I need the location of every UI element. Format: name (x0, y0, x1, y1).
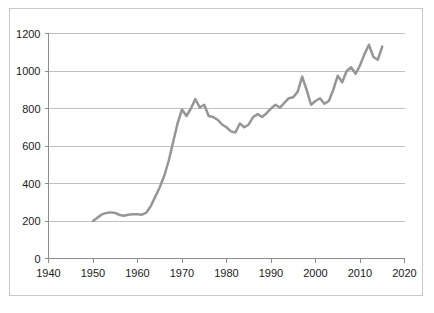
y-tick-label-1000: 1000 (16, 65, 40, 77)
y-tick-label-1200: 1200 (16, 28, 40, 40)
chart-figure: 020040060080010001200 194019501960197019… (0, 0, 434, 313)
x-tick-label-2010: 2010 (348, 267, 372, 279)
x-tick-label-1940: 1940 (36, 267, 60, 279)
x-tick-label-2000: 2000 (303, 267, 327, 279)
y-tick-label-200: 200 (22, 215, 40, 227)
x-axis-labels: 194019501960197019801990200020102020 (36, 267, 416, 279)
x-tick-label-1950: 1950 (81, 267, 105, 279)
x-tick-group (49, 259, 405, 263)
x-tick-label-1970: 1970 (170, 267, 194, 279)
y-tick-label-400: 400 (22, 178, 40, 190)
y-tick-label-600: 600 (22, 140, 40, 152)
y-tick-group (45, 34, 49, 259)
x-tick-label-1960: 1960 (125, 267, 149, 279)
x-tick-label-1980: 1980 (214, 267, 238, 279)
y-tick-label-800: 800 (22, 103, 40, 115)
x-tick-label-1990: 1990 (259, 267, 283, 279)
y-tick-label-0: 0 (34, 253, 40, 265)
y-axis-labels: 020040060080010001200 (16, 28, 40, 265)
x-tick-label-2020: 2020 (392, 267, 416, 279)
line-chart: 020040060080010001200 194019501960197019… (0, 0, 434, 313)
